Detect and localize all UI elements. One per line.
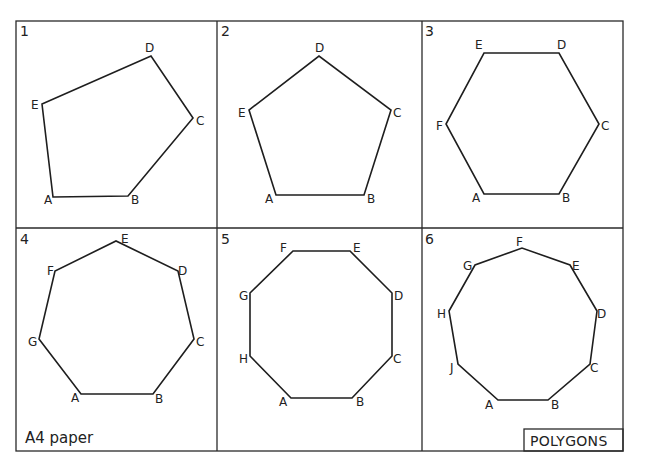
drawing-sheet: 1ABCDE2ABCDE3ABCDEF4ABCDEFG5ABCDEFGH6ABC…	[0, 0, 652, 472]
vertex-label: D	[315, 41, 324, 55]
vertex-label: C	[393, 352, 401, 366]
vertex-label: B	[155, 392, 163, 406]
vertex-label: E	[353, 241, 361, 255]
title-block-label: POLYGONS	[530, 433, 608, 449]
vertex-label: B	[562, 191, 570, 205]
vertex-label: C	[393, 106, 401, 120]
vertex-label: C	[590, 361, 598, 375]
vertex-label: A	[472, 191, 481, 205]
vertex-label: F	[47, 264, 54, 278]
vertex-label: D	[394, 289, 403, 303]
vertex-label: A	[44, 193, 53, 207]
panel-number: 3	[425, 23, 434, 39]
vertex-label: B	[131, 193, 139, 207]
vertex-label: E	[121, 232, 129, 246]
vertex-label: H	[437, 307, 446, 321]
vertex-label: E	[31, 98, 39, 112]
panel-number: 6	[425, 231, 434, 247]
paper-size-note: A4 paper	[25, 429, 94, 447]
vertex-label: F	[436, 119, 443, 133]
vertex-label: D	[145, 41, 154, 55]
vertex-label: G	[28, 335, 37, 349]
vertex-label: D	[178, 264, 187, 278]
vertex-label: F	[516, 235, 523, 249]
vertex-label: D	[557, 38, 566, 52]
vertex-label: A	[265, 192, 274, 206]
vertex-label: G	[239, 289, 248, 303]
vertex-label: B	[367, 192, 375, 206]
vertex-label: E	[238, 106, 246, 120]
vertex-label: C	[196, 114, 204, 128]
vertex-label: E	[572, 259, 580, 273]
vertex-label: A	[279, 395, 288, 409]
vertex-label: D	[597, 307, 606, 321]
panel-number: 4	[20, 231, 29, 247]
panel-number: 2	[221, 23, 230, 39]
vertex-label: A	[485, 398, 494, 412]
vertex-label: A	[71, 391, 80, 405]
panel-number: 1	[20, 23, 29, 39]
vertex-label: C	[196, 335, 204, 349]
vertex-label: B	[356, 395, 364, 409]
vertex-label: B	[551, 398, 559, 412]
vertex-label: J	[449, 361, 454, 375]
vertex-label: C	[601, 119, 609, 133]
vertex-label: F	[280, 241, 287, 255]
vertex-label: G	[463, 259, 472, 273]
vertex-label: E	[475, 38, 483, 52]
panel-number: 5	[221, 231, 230, 247]
vertex-label: H	[239, 352, 248, 366]
